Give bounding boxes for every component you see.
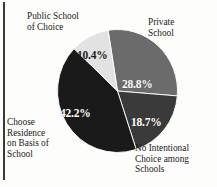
category-label-line: Public School xyxy=(27,11,79,22)
pie-svg xyxy=(57,29,178,153)
category-label-line: School xyxy=(7,149,49,160)
pie-chart-graphic xyxy=(57,29,178,153)
slice-value-private-school: 28.8% xyxy=(122,78,153,90)
category-label-line: on Basis of xyxy=(7,138,49,149)
category-label-line: Choose xyxy=(7,117,49,128)
pie-slice-group xyxy=(58,30,178,153)
category-label-public-school-of-choice: Public School of Choice xyxy=(27,11,79,32)
slice-value-public-school-of-choice: 10.4% xyxy=(77,49,108,61)
category-label-choose-residence: Choose Residence on Basis of School xyxy=(7,117,49,159)
slice-value-no-intentional-choice: 18.7% xyxy=(131,116,162,128)
category-label-line: Choice among xyxy=(135,154,189,165)
category-label-no-intentional-choice: No Intentional Choice among Schools xyxy=(135,143,189,175)
category-label-line: Private xyxy=(148,17,174,28)
category-label-line: Schools xyxy=(135,164,189,175)
pie-chart-figure: 28.8% 18.7% 42.2% 10.4% Public School of… xyxy=(0,0,217,187)
slice-value-choose-residence: 42.2% xyxy=(60,107,91,119)
category-label-line: of Choice xyxy=(27,22,79,33)
category-label-line: Residence xyxy=(7,128,49,139)
category-label-line: No Intentional xyxy=(135,143,189,154)
category-label-line: School xyxy=(148,28,174,39)
category-label-private-school: Private School xyxy=(148,17,174,38)
figure-left-border xyxy=(3,2,5,180)
